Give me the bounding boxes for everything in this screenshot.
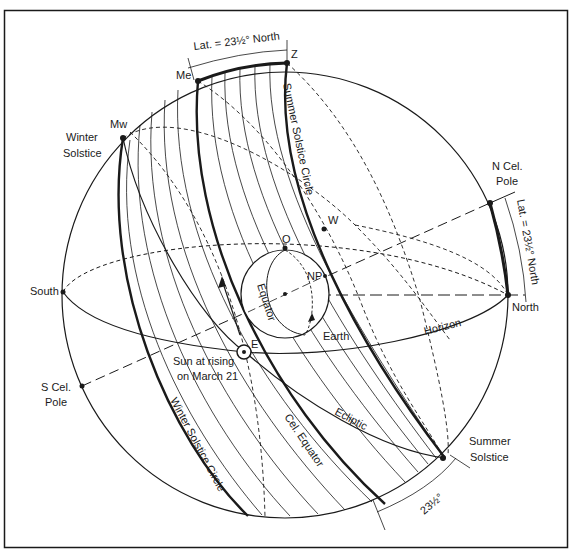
direction-arrow (222, 280, 240, 335)
mw-label: Mw (110, 118, 127, 130)
summer-solstice-label-2: Solstice (470, 451, 509, 463)
sun-center (242, 350, 246, 354)
south-label: South (30, 285, 59, 297)
arrow-head-icon (218, 276, 226, 288)
latitude-arc (490, 203, 508, 295)
north-label: North (512, 301, 539, 313)
zenith-label: Z (291, 48, 298, 60)
bracket-tick (373, 500, 385, 530)
angle-bottom-label: 23½° (418, 491, 445, 517)
polar-axis-tick (490, 192, 515, 203)
winter-solstice-label-2: Solstice (63, 147, 102, 159)
np-label: NP (307, 270, 322, 282)
s-cel-pole-label-2: Pole (45, 396, 67, 408)
angle-bracket-bottom (377, 458, 456, 512)
n-cel-pole-label-2: Pole (496, 175, 518, 187)
lat-right-label: Lat. = 23½° North (515, 198, 542, 285)
sun-rising-label-2: on March 21 (177, 370, 238, 382)
lat-top-label: Lat. = 23½° North (193, 30, 280, 52)
o-label: O (282, 233, 291, 245)
dashed-west-arc (355, 225, 508, 295)
cel-equator-label: Cel. Equator (282, 411, 326, 469)
winter-solstice-circle (119, 138, 248, 516)
sun-rising-label-1: Sun at rising (173, 355, 234, 367)
me-label: Me (176, 69, 191, 81)
s-cel-pole-label-1: S Cel. (41, 381, 71, 393)
summer-solstice-label-1: Summer (469, 435, 511, 447)
east-label: E (251, 338, 258, 350)
n-cel-pole-label-1: N Cel. (492, 160, 523, 172)
horizon-label: Horizon (423, 316, 463, 337)
winter-solstice-label-1: Winter (66, 131, 98, 143)
earth-label: Earth (323, 330, 349, 342)
celestial-sphere-diagram: Lat. = 23½° North Z Me Mw Winter Solstic… (0, 0, 572, 552)
lat-bracket-top (188, 50, 287, 68)
west-label: W (328, 214, 339, 226)
winter-solstice-circle-label: Winter Solstice Circle (168, 395, 228, 493)
